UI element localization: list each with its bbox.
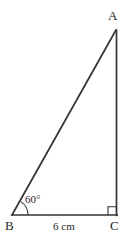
vertex-label-b: B bbox=[5, 219, 14, 232]
side-ba-hypotenuse-line bbox=[12, 30, 116, 215]
vertex-label-a: A bbox=[108, 9, 117, 22]
geometry-figure: A B C 60° 6 cm bbox=[0, 0, 132, 246]
right-angle-square-at-c bbox=[108, 207, 116, 215]
vertex-label-c: C bbox=[110, 219, 119, 232]
side-length-label-bc: 6 cm bbox=[53, 221, 75, 232]
triangle-drawing bbox=[0, 0, 132, 246]
angle-label-60-degrees: 60° bbox=[25, 194, 40, 205]
